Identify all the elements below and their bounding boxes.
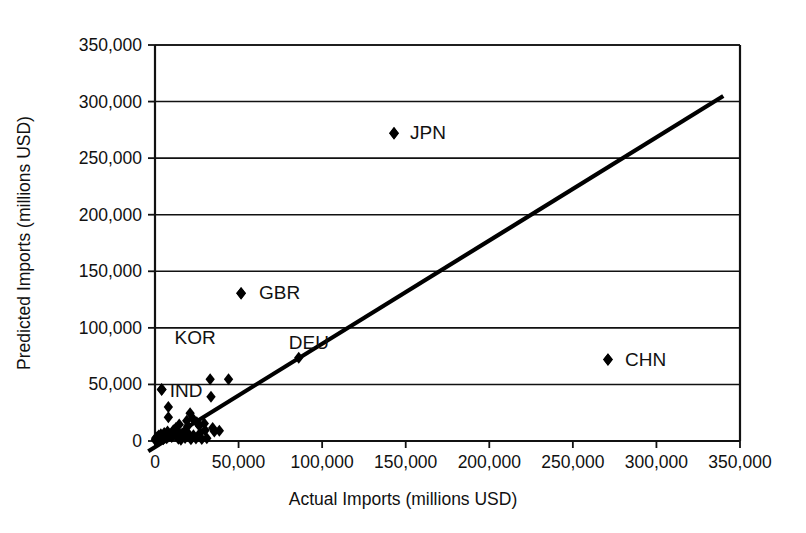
y-tick-label: 350,000	[79, 35, 143, 55]
x-tick-label: 150,000	[374, 452, 438, 472]
y-axis-title: Predicted Imports (millions USD)	[14, 116, 34, 370]
scatter-chart-figure: 050,000100,000150,000200,000250,000300,0…	[0, 0, 806, 533]
chart-canvas: 050,000100,000150,000200,000250,000300,0…	[0, 0, 806, 533]
x-tick-label: 0	[150, 452, 160, 472]
y-tick-label: 250,000	[79, 148, 143, 168]
y-tick-label: 150,000	[79, 261, 143, 281]
x-tick-label: 350,000	[708, 452, 772, 472]
x-tick-label: 100,000	[291, 452, 355, 472]
x-tick-label: 250,000	[541, 452, 605, 472]
point-label-gbr: GBR	[259, 282, 300, 303]
point-label-kor: KOR	[175, 327, 216, 348]
point-label-jpn: JPN	[410, 122, 446, 143]
y-tick-label: 300,000	[79, 92, 143, 112]
y-tick-label: 50,000	[88, 374, 142, 394]
y-tick-label: 0	[132, 431, 142, 451]
point-label-chn: CHN	[625, 349, 666, 370]
x-axis-tick-labels: 050,000100,000150,000200,000250,000300,0…	[150, 452, 772, 472]
x-tick-label: 200,000	[458, 452, 522, 472]
x-axis-title: Actual Imports (millions USD)	[289, 489, 518, 509]
y-tick-label: 100,000	[79, 318, 143, 338]
point-label-deu: DEU	[289, 332, 329, 353]
x-tick-label: 50,000	[212, 452, 266, 472]
y-tick-label: 200,000	[79, 205, 143, 225]
point-label-ind: IND	[170, 380, 203, 401]
x-tick-label: 300,000	[625, 452, 689, 472]
